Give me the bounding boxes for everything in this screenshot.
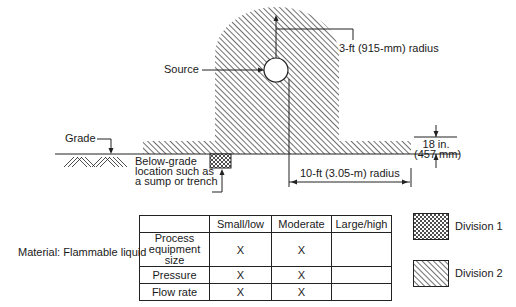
material-label: Material: Flammable liquid [18,246,146,259]
table-row: Process equipment size X X [140,233,392,267]
radius-3ft-label: 3-ft (915-mm) radius [339,42,439,55]
source-label: Source [164,63,199,76]
height-18in-label: 18 in. (457 mm) [414,139,458,159]
legend-division-2-label: Division 2 [455,267,503,280]
below-grade-label: Below-grade location such as a sump or t… [135,156,218,186]
legend-division-1-label: Division 1 [455,220,503,233]
source-circle [264,58,288,82]
table-row: Flow rate X X [140,284,392,301]
row-label: Process equipment size [140,233,210,267]
legend-swatches [413,213,450,293]
criteria-table: Small/low Moderate Large/high Process eq… [139,215,392,301]
ground-symbol [64,157,127,167]
table-header-row: Small/low Moderate Large/high [140,216,392,233]
table-row: Pressure X X [140,267,392,284]
division-1-swatch [414,214,449,240]
division-2-swatch [414,261,449,287]
grade-label: Grade [65,132,96,145]
radius-10ft-label: 10-ft (3.05-m) radius [300,167,400,180]
